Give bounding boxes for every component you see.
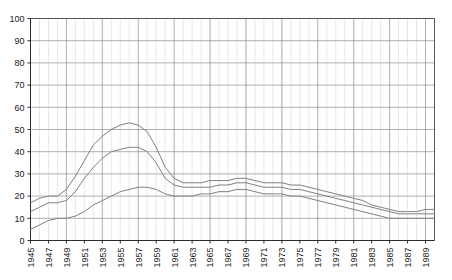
y-tick-label-20: 20 xyxy=(14,191,24,201)
x-tick-label-1971: 1971 xyxy=(259,248,269,268)
x-tick-label-1977: 1977 xyxy=(313,248,323,268)
x-tick-label-1967: 1967 xyxy=(223,248,233,268)
y-tick-label-50: 50 xyxy=(14,125,24,135)
x-tick-label-1945: 1945 xyxy=(26,248,36,268)
x-tick-label-1961: 1961 xyxy=(170,248,180,268)
x-tick-label-1953: 1953 xyxy=(98,248,108,268)
x-tick-label-1989: 1989 xyxy=(421,248,431,268)
x-tick-label-1975: 1975 xyxy=(295,248,305,268)
y-axis: 0102030405060708090100 xyxy=(9,14,30,246)
y-tick-label-0: 0 xyxy=(19,236,24,246)
series-line-lower xyxy=(31,187,435,229)
line-chart: 0102030405060708090100 19451947194919511… xyxy=(0,0,452,280)
x-tick-label-1965: 1965 xyxy=(205,248,215,268)
x-tick-label-1985: 1985 xyxy=(385,248,395,268)
x-tick-label-1981: 1981 xyxy=(349,248,359,268)
chart-container: 0102030405060708090100 19451947194919511… xyxy=(0,0,452,280)
x-tick-label-1983: 1983 xyxy=(367,248,377,268)
y-tick-label-40: 40 xyxy=(14,147,24,157)
y-tick-label-90: 90 xyxy=(14,36,24,46)
x-tick-label-1947: 1947 xyxy=(44,248,54,268)
x-tick-label-1957: 1957 xyxy=(134,248,144,268)
x-tick-label-1951: 1951 xyxy=(80,248,90,268)
x-tick-label-1973: 1973 xyxy=(277,248,287,268)
x-tick-label-1955: 1955 xyxy=(116,248,126,268)
gridlines-horizontal xyxy=(31,19,435,219)
x-tick-label-1987: 1987 xyxy=(403,248,413,268)
x-tick-label-1979: 1979 xyxy=(331,248,341,268)
x-tick-label-1963: 1963 xyxy=(188,248,198,268)
y-tick-label-10: 10 xyxy=(14,214,24,224)
y-tick-label-60: 60 xyxy=(14,103,24,113)
x-tick-label-1959: 1959 xyxy=(152,248,162,268)
y-tick-label-70: 70 xyxy=(14,80,24,90)
x-tick-label-1969: 1969 xyxy=(241,248,251,268)
data-series-group xyxy=(31,123,435,230)
y-tick-label-30: 30 xyxy=(14,169,24,179)
y-tick-label-100: 100 xyxy=(9,14,24,24)
series-line-middle xyxy=(31,147,435,214)
x-axis: 1945194719491951195319551957195919611963… xyxy=(26,241,431,268)
series-line-upper xyxy=(31,123,435,212)
y-tick-label-80: 80 xyxy=(14,58,24,68)
x-tick-label-1949: 1949 xyxy=(62,248,72,268)
